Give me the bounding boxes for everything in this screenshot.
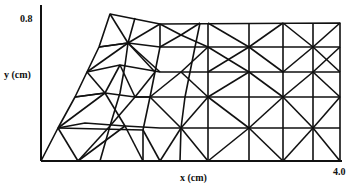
mesh-diagram [0,0,362,187]
mesh-edges [41,14,340,161]
